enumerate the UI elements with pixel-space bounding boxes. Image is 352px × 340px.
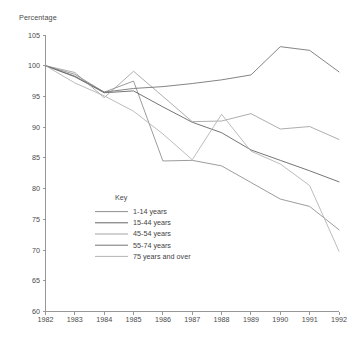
series-line-75-years-and-over — [46, 66, 340, 252]
y-tick-label: 65 — [32, 276, 40, 285]
y-tick-label: 100 — [28, 61, 40, 70]
x-tick-label: 1991 — [302, 315, 318, 324]
x-axis-ticks: 1982198319841985198619871988198919901991… — [38, 312, 348, 325]
x-tick-label: 1992 — [331, 315, 347, 324]
x-tick-label: 1983 — [67, 315, 83, 324]
y-tick-label: 80 — [32, 184, 40, 193]
y-tick-label: 105 — [28, 31, 40, 40]
y-tick-label: 70 — [32, 246, 40, 255]
series-line-45-54-years — [46, 66, 340, 140]
y-tick-label: 85 — [32, 153, 40, 162]
legend-label-1: 1-14 years — [133, 207, 167, 216]
legend-label-5: 75 years and over — [133, 252, 191, 261]
legend-label-3: 45-54 years — [133, 229, 171, 238]
x-axis: 1982198319841985198619871988198919901991… — [38, 312, 348, 325]
legend-items: 1-14 years15-44 years45-54 years55-74 ye… — [95, 207, 191, 261]
x-tick-label: 1984 — [96, 315, 112, 324]
legend-label-2: 15-44 years — [133, 218, 171, 227]
line-chart: Percentage 1051009590858075706560 198219… — [0, 0, 352, 340]
x-tick-label: 1986 — [155, 315, 171, 324]
y-tick-label: 75 — [32, 215, 40, 224]
chart-legend: Key 1-14 years15-44 years45-54 years55-7… — [95, 193, 191, 261]
x-tick-label: 1989 — [243, 315, 259, 324]
y-axis: 1051009590858075706560 — [28, 31, 46, 317]
y-tick-label: 95 — [32, 92, 40, 101]
x-tick-label: 1985 — [126, 315, 142, 324]
x-tick-label: 1987 — [184, 315, 200, 324]
x-tick-label: 1982 — [38, 315, 54, 324]
legend-label-4: 55-74 years — [133, 241, 171, 250]
chart-plot-area: 1051009590858075706560 19821983198419851… — [0, 0, 352, 340]
y-tick-label: 90 — [32, 123, 40, 132]
x-tick-label: 1990 — [272, 315, 288, 324]
series-line-1-14-years — [46, 66, 340, 230]
x-tick-label: 1988 — [214, 315, 230, 324]
y-axis-ticks: 1051009590858075706560 — [28, 31, 46, 317]
legend-title: Key — [115, 193, 128, 202]
data-series-group — [46, 47, 340, 252]
